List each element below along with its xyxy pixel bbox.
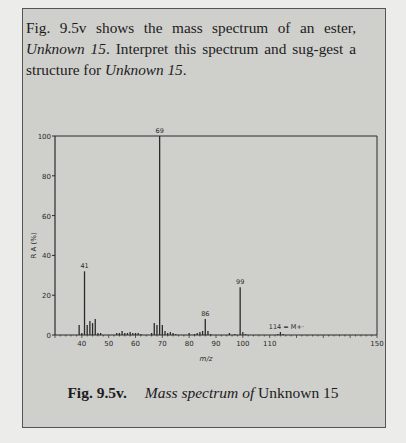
y-tick-label: 60 (42, 213, 51, 221)
peak-label: 99 (236, 278, 244, 286)
figure-number: Fig. 9.5v. (67, 384, 126, 401)
y-axis-label: R A (%) (30, 232, 38, 258)
peak-label: 41 (80, 262, 88, 270)
y-tick-label: 100 (38, 133, 51, 141)
x-tick-label: 60 (131, 340, 140, 348)
caption-plain: Unknown 15 (254, 384, 338, 401)
x-tick-label: 100 (236, 340, 249, 348)
x-tick-label: 40 (77, 340, 86, 348)
y-tick-label: 80 (42, 173, 51, 181)
x-axis-label: m/z (200, 355, 213, 363)
figure-caption: Fig. 9.5v.Mass spectrum of Unknown 15 (0, 384, 406, 402)
x-tick-label: 150 (370, 340, 383, 348)
peak-label: 69 (156, 127, 164, 135)
caption-italic: Mass spectrum of (145, 384, 254, 401)
peak-label: 86 (201, 310, 209, 318)
x-tick-label: 110 (263, 340, 276, 348)
y-tick-label: 20 (42, 292, 51, 300)
y-tick-label: 40 (42, 252, 51, 260)
x-tick-label: 70 (158, 340, 167, 348)
peak-label: 114 = M+· (269, 323, 304, 331)
mass-spectrum-chart: 020406080100405060708090100110150m/zR A … (0, 0, 406, 443)
y-tick-label: 0 (47, 332, 51, 340)
x-tick-label: 90 (212, 340, 221, 348)
x-tick-label: 50 (104, 340, 113, 348)
x-tick-label: 80 (185, 340, 194, 348)
